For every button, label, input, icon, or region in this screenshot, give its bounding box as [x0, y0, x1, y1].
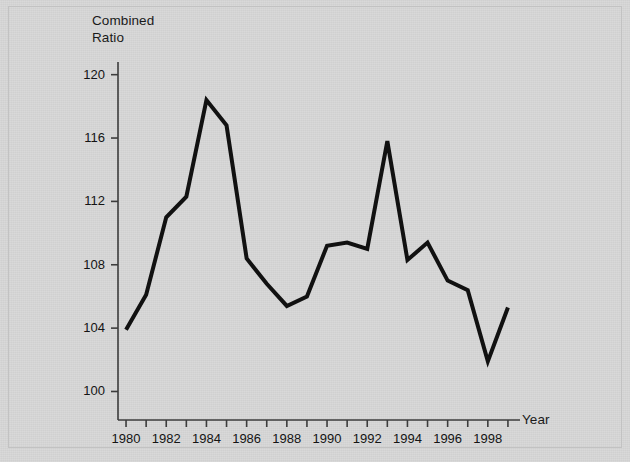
y-axis-tick-label: 116 — [65, 130, 105, 145]
axis-lines — [118, 62, 520, 420]
x-axis-tick-label: 1986 — [224, 431, 270, 446]
y-axis-ticks — [111, 75, 118, 392]
y-axis-tick-label: 104 — [65, 320, 105, 335]
chart-figure: Combined Ratio Year 100104108112116120 1… — [0, 0, 630, 462]
x-axis-tick-label: 1996 — [425, 431, 471, 446]
y-axis-title-line-2: Ratio — [92, 29, 154, 46]
x-axis-tick-label: 1990 — [304, 431, 350, 446]
x-axis-tick-label: 1988 — [264, 431, 310, 446]
y-axis-title-line-1: Combined — [92, 12, 154, 29]
x-axis-tick-label: 1980 — [103, 431, 149, 446]
y-axis-title: Combined Ratio — [92, 12, 154, 46]
x-axis-tick-label: 1994 — [384, 431, 430, 446]
y-axis-tick-label: 112 — [65, 193, 105, 208]
combined-ratio-line — [126, 100, 508, 361]
y-axis-tick-label: 120 — [65, 67, 105, 82]
y-axis-tick-label: 108 — [65, 257, 105, 272]
x-axis-ticks — [126, 420, 508, 427]
x-axis-tick-label: 1992 — [344, 431, 390, 446]
x-axis-tick-label: 1998 — [465, 431, 511, 446]
y-axis-tick-label: 100 — [65, 383, 105, 398]
x-axis-tick-label: 1984 — [183, 431, 229, 446]
x-axis-title: Year — [522, 412, 550, 427]
x-axis-tick-label: 1982 — [143, 431, 189, 446]
